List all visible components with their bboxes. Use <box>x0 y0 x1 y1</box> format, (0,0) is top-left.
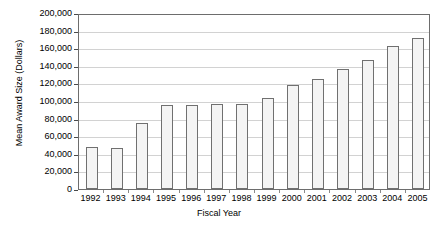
y-axis-tick-label: 20,000 <box>18 166 72 176</box>
y-axis-tick-label: 0 <box>18 184 72 194</box>
y-axis-tick-mark <box>74 190 78 191</box>
y-axis-tick-label: 180,000 <box>18 26 72 36</box>
bar <box>111 148 123 189</box>
gridline <box>79 67 429 68</box>
y-axis-tick-label: 80,000 <box>18 114 72 124</box>
y-axis-tick-label: 100,000 <box>18 96 72 106</box>
y-axis-tick-label: 40,000 <box>18 149 72 159</box>
y-axis-tick-label: 140,000 <box>18 61 72 71</box>
bar <box>211 104 223 189</box>
plot-area <box>78 14 430 190</box>
y-axis-tick-label: 200,000 <box>18 8 72 18</box>
y-axis-tick-label: 120,000 <box>18 78 72 88</box>
y-axis-tick-label: 160,000 <box>18 43 72 53</box>
bar <box>262 98 274 189</box>
bar <box>337 69 349 189</box>
x-axis-title: Fiscal Year <box>0 208 438 218</box>
bar <box>236 104 248 189</box>
bar <box>312 79 324 189</box>
bar <box>412 38 424 189</box>
bar <box>186 105 198 189</box>
gridline <box>79 120 429 121</box>
gridline <box>79 102 429 103</box>
gridline <box>79 49 429 50</box>
bar <box>387 46 399 189</box>
bar <box>287 85 299 189</box>
bar <box>362 60 374 189</box>
y-axis-tick-label: 60,000 <box>18 131 72 141</box>
bar <box>161 105 173 189</box>
gridline <box>79 32 429 33</box>
x-axis-tick-label: 2005 <box>401 193 433 203</box>
gridline <box>79 172 429 173</box>
bar <box>86 147 98 189</box>
gridline <box>79 84 429 85</box>
gridline <box>79 137 429 138</box>
bar <box>136 123 148 189</box>
bar-chart: Mean Award Size (Dollars) 020,00040,0006… <box>0 0 438 229</box>
gridline <box>79 155 429 156</box>
